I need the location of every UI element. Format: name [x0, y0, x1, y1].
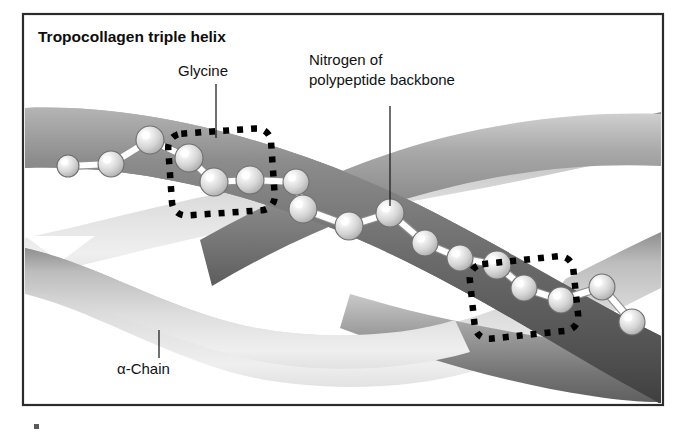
nitrogen-sphere-highlight	[103, 156, 111, 164]
nitrogen-sphere-highlight	[142, 131, 150, 139]
nitrogen-sphere	[175, 144, 203, 172]
nitrogen-sphere	[511, 275, 537, 301]
nitrogen-label-line1: Nitrogen of	[309, 51, 383, 68]
nitrogen-sphere	[283, 169, 309, 195]
nitrogen-sphere-highlight	[382, 204, 390, 212]
nitrogen-sphere-highlight	[242, 171, 250, 179]
nitrogen-label-line2: polypeptide backbone	[309, 71, 455, 88]
nitrogen-sphere	[335, 212, 363, 240]
nitrogen-sphere-highlight	[452, 250, 460, 258]
nitrogen-sphere-highlight	[341, 217, 349, 225]
nitrogen-sphere	[619, 309, 645, 335]
alpha-chain-label: α-Chain	[117, 360, 170, 377]
nitrogen-sphere-highlight	[516, 280, 524, 288]
glycine-label: Glycine	[178, 62, 228, 79]
figure-title: Tropocollagen triple helix	[38, 28, 226, 45]
nitrogen-sphere-highlight	[288, 174, 296, 182]
nitrogen-sphere-highlight	[206, 173, 214, 181]
nitrogen-sphere	[548, 287, 574, 313]
nitrogen-sphere	[200, 168, 228, 196]
nitrogen-sphere-highlight	[295, 200, 303, 208]
nitrogen-sphere-highlight	[61, 159, 68, 166]
nitrogen-sphere	[136, 126, 164, 154]
nitrogen-sphere-highlight	[181, 149, 189, 157]
nitrogen-sphere	[589, 274, 615, 300]
nitrogen-sphere	[447, 245, 473, 271]
nitrogen-sphere-highlight	[624, 314, 632, 322]
nitrogen-sphere-highlight	[417, 235, 425, 243]
nitrogen-sphere-highlight	[594, 279, 602, 287]
nitrogen-sphere-highlight	[553, 292, 561, 300]
nitrogen-sphere	[289, 195, 317, 223]
tropocollagen-figure: Tropocollagen triple helix Glycine Nitro…	[0, 0, 677, 433]
scan-artifact-mark	[34, 424, 39, 429]
nitrogen-sphere	[236, 166, 264, 194]
nitrogen-sphere	[412, 230, 438, 256]
nitrogen-sphere	[57, 155, 79, 177]
nitrogen-sphere	[98, 151, 124, 177]
nitrogen-sphere-highlight	[489, 256, 497, 264]
